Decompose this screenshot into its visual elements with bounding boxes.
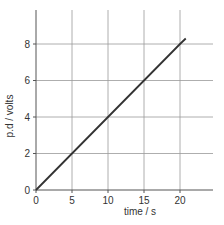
y-tick-label: 6: [24, 75, 30, 86]
line-chart: 0510152002468 time / s p.d / volts: [0, 0, 224, 225]
x-tick-label: 15: [138, 195, 150, 206]
data-series: [36, 39, 186, 190]
y-tick-label: 4: [24, 112, 30, 123]
y-tick-label: 0: [24, 185, 30, 196]
data-line: [36, 39, 186, 190]
y-tick-label: 8: [24, 39, 30, 50]
y-axis-label: p.d / volts: [4, 95, 15, 138]
x-axis-label: time / s: [124, 206, 156, 217]
x-tick-label: 10: [102, 195, 114, 206]
y-tick-label: 2: [24, 148, 30, 159]
x-tick-label: 20: [174, 195, 186, 206]
x-tick-label: 5: [69, 195, 75, 206]
x-tick-label: 0: [33, 195, 39, 206]
